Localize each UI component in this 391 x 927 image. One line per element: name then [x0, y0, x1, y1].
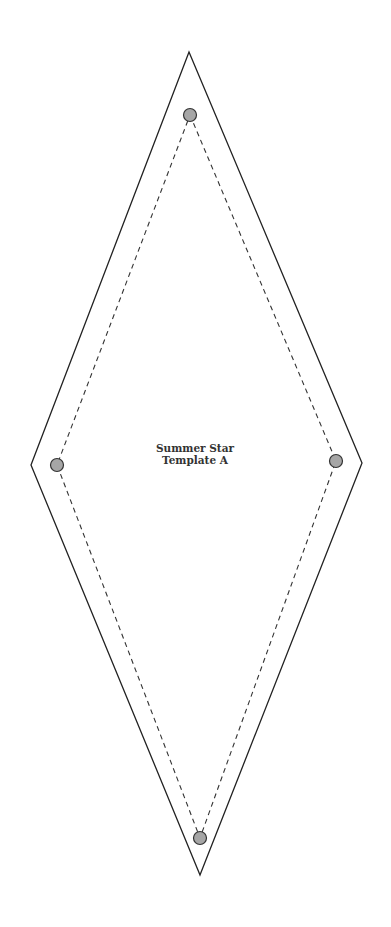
template-title-line2: Template A [120, 454, 270, 466]
marker-top [184, 109, 197, 122]
marker-left [51, 459, 64, 472]
marker-bottom [194, 832, 207, 845]
template-title: Summer Star Template A [120, 442, 270, 466]
template-title-line1: Summer Star [120, 442, 270, 454]
seam-line-dashed [57, 115, 336, 838]
marker-right [330, 455, 343, 468]
